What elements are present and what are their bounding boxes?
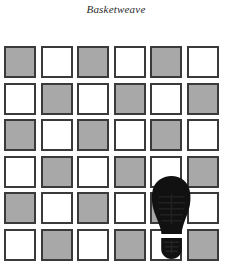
tile-r1-c4 <box>114 46 146 78</box>
tile-r2-c6 <box>187 83 219 115</box>
tile-r1-c1 <box>4 46 36 78</box>
tile-r3-c6 <box>187 119 219 151</box>
tile-r6-c4 <box>114 229 146 261</box>
tile-r6-c5 <box>150 229 182 261</box>
tile-r3-c4 <box>114 119 146 151</box>
tile-r1-c3 <box>77 46 109 78</box>
tile-r4-c4 <box>114 156 146 188</box>
tile-r2-c1 <box>4 83 36 115</box>
tile-r6-c2 <box>41 229 73 261</box>
tile-r5-c3 <box>77 192 109 224</box>
tile-r4-c3 <box>77 156 109 188</box>
tile-grid <box>4 46 224 266</box>
tile-r1-c2 <box>41 46 73 78</box>
tile-r3-c2 <box>41 119 73 151</box>
tile-r4-c6 <box>187 156 219 188</box>
tile-r5-c4 <box>114 192 146 224</box>
tile-r5-c1 <box>4 192 36 224</box>
tile-r5-c5 <box>150 192 182 224</box>
tile-r2-c5 <box>150 83 182 115</box>
tile-r1-c6 <box>187 46 219 78</box>
tile-r3-c1 <box>4 119 36 151</box>
tile-r3-c5 <box>150 119 182 151</box>
tile-r1-c5 <box>150 46 182 78</box>
tile-r4-c1 <box>4 156 36 188</box>
tile-r2-c3 <box>77 83 109 115</box>
tile-r4-c2 <box>41 156 73 188</box>
tile-r4-c5 <box>150 156 182 188</box>
tile-r5-c6 <box>187 192 219 224</box>
figure-caption: Basketweave <box>0 2 232 16</box>
tile-r6-c3 <box>77 229 109 261</box>
tile-r5-c2 <box>41 192 73 224</box>
tile-r6-c6 <box>187 229 219 261</box>
basketweave-figure: Basketweave <box>0 0 232 280</box>
tile-r6-c1 <box>4 229 36 261</box>
tile-r2-c2 <box>41 83 73 115</box>
tile-r2-c4 <box>114 83 146 115</box>
tile-r3-c3 <box>77 119 109 151</box>
